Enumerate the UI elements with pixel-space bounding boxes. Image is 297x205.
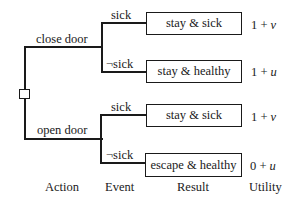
decision-node xyxy=(19,89,30,99)
utility-close-not-sick: 1 + u xyxy=(251,66,277,79)
utility-var: v xyxy=(271,18,277,32)
utility-open-not-sick: 0 + u xyxy=(250,160,276,173)
event-branch-close-not-sick xyxy=(101,71,147,73)
result-box-open-sick: stay & sick xyxy=(146,104,242,127)
utility-var: u xyxy=(270,159,276,173)
utility-open-sick: 1 + v xyxy=(251,111,276,124)
result-label: escape & healthy xyxy=(150,158,236,173)
utility-op: + xyxy=(259,159,266,173)
utility-close-sick: 1 + v xyxy=(251,19,276,32)
result-box-open-not-sick: escape & healthy xyxy=(145,153,242,177)
utility-base: 1 xyxy=(251,65,257,79)
decision-tree-diagram: close door sick ¬sick stay & sick stay &… xyxy=(0,0,297,205)
result-label: stay & sick xyxy=(166,16,222,31)
event-label-open-not-sick: ¬sick xyxy=(106,149,133,162)
column-header-action: Action xyxy=(45,181,79,194)
event-label-open-sick: sick xyxy=(111,101,131,114)
action-label-open-door: open door xyxy=(37,124,87,137)
result-box-close-not-sick: stay & healthy xyxy=(146,60,242,83)
utility-base: 1 xyxy=(251,18,257,32)
result-label: stay & sick xyxy=(166,108,222,123)
event-label-close-not-sick: ¬sick xyxy=(106,58,133,71)
utility-op: + xyxy=(260,65,267,79)
event-split-close-door xyxy=(101,22,103,73)
utility-base: 1 xyxy=(251,110,257,124)
column-header-utility: Utility xyxy=(249,181,282,194)
utility-var: v xyxy=(271,110,277,124)
result-box-close-sick: stay & sick xyxy=(146,12,242,35)
column-header-event: Event xyxy=(105,181,134,194)
event-label-close-sick: sick xyxy=(111,9,131,22)
column-header-result: Result xyxy=(177,181,209,194)
utility-base: 0 xyxy=(250,159,256,173)
event-branch-close-sick xyxy=(101,22,147,24)
utility-var: u xyxy=(271,65,277,79)
utility-op: + xyxy=(260,18,267,32)
action-branch-open-door xyxy=(24,138,103,140)
event-branch-open-sick xyxy=(100,114,147,116)
result-label: stay & healthy xyxy=(158,64,231,79)
action-label-close-door: close door xyxy=(36,33,88,46)
utility-op: + xyxy=(260,110,267,124)
action-branch-close-door xyxy=(24,46,103,48)
event-split-open-door xyxy=(100,114,102,164)
event-branch-open-not-sick xyxy=(100,162,146,164)
